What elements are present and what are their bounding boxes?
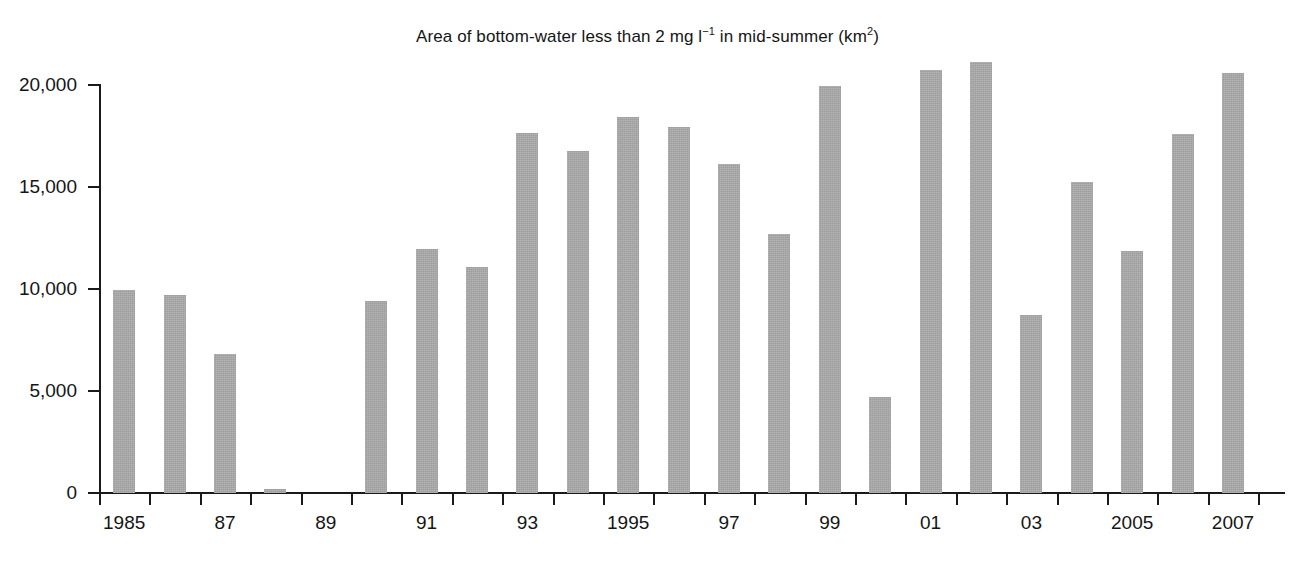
y-axis-tick — [88, 390, 99, 392]
bar — [617, 117, 639, 493]
chart-title-part-1: Area of bottom-water less than 2 mg l — [416, 27, 702, 46]
bar — [516, 133, 538, 493]
x-axis-tick-label: 99 — [819, 512, 840, 534]
x-axis-tick-label: 2007 — [1212, 512, 1254, 534]
x-axis-tick — [704, 494, 706, 505]
x-axis-tick — [99, 494, 101, 505]
y-axis-tick — [88, 186, 99, 188]
x-axis-tick-label: 91 — [416, 512, 437, 534]
x-axis-tick — [301, 494, 303, 505]
x-axis-tick — [603, 494, 605, 505]
bar — [1222, 73, 1244, 493]
chart-figure: Area of bottom-water less than 2 mg l−1 … — [0, 0, 1295, 561]
x-axis-tick-label: 87 — [214, 512, 235, 534]
x-axis-tick — [1208, 494, 1210, 505]
x-axis-tick — [855, 494, 857, 505]
plot-area: No data — [99, 85, 1284, 493]
x-axis-tick — [200, 494, 202, 505]
bar — [869, 397, 891, 493]
x-axis-tick — [1157, 494, 1159, 505]
bar — [970, 62, 992, 493]
bar — [1071, 182, 1093, 493]
bar — [365, 301, 387, 493]
x-axis-tick-label: 93 — [517, 512, 538, 534]
x-axis-tick — [805, 494, 807, 505]
x-axis-tick-label: 2005 — [1111, 512, 1153, 534]
x-axis-tick — [502, 494, 504, 505]
bar — [1172, 134, 1194, 493]
bar — [416, 249, 438, 493]
bar — [668, 127, 690, 493]
bar — [567, 151, 589, 493]
x-axis-tick-label: 03 — [1021, 512, 1042, 534]
x-axis-tick-label: 1995 — [607, 512, 649, 534]
chart-title-superscript-minus-one: −1 — [702, 25, 715, 37]
x-axis-tick — [553, 494, 555, 505]
bar — [1121, 251, 1143, 493]
x-axis-tick — [956, 494, 958, 505]
x-axis-tick-label: 97 — [718, 512, 739, 534]
chart-title: Area of bottom-water less than 2 mg l−1 … — [0, 27, 1295, 47]
x-axis-tick — [1057, 494, 1059, 505]
bar — [466, 267, 488, 493]
x-axis-tick — [452, 494, 454, 505]
y-axis-tick-label: 10,000 — [19, 278, 77, 300]
x-axis-tick — [905, 494, 907, 505]
no-data-annotation: No data — [0, 430, 335, 493]
x-axis-tick — [250, 494, 252, 505]
x-axis-tick-label: 89 — [315, 512, 336, 534]
x-axis-tick — [1107, 494, 1109, 505]
y-axis-tick — [88, 84, 99, 86]
x-axis-tick-label: 1985 — [103, 512, 145, 534]
x-axis-tick — [1258, 494, 1260, 505]
x-axis-tick — [149, 494, 151, 505]
bar — [1020, 315, 1042, 494]
bar — [718, 164, 740, 493]
y-axis-tick — [88, 288, 99, 290]
x-axis-tick — [754, 494, 756, 505]
y-axis-tick-label: 15,000 — [19, 176, 77, 198]
x-axis-tick — [1006, 494, 1008, 505]
x-axis-tick — [401, 494, 403, 505]
chart-title-part-3: ) — [873, 27, 879, 46]
x-axis-tick-label: 01 — [920, 512, 941, 534]
bar — [920, 70, 942, 493]
x-axis-tick — [351, 494, 353, 505]
bar — [819, 86, 841, 493]
bar — [768, 234, 790, 493]
chart-title-part-2: in mid-summer (km — [715, 27, 867, 46]
y-axis-tick-label: 20,000 — [19, 74, 77, 96]
x-axis-tick — [653, 494, 655, 505]
y-axis-tick-label: 5,000 — [29, 380, 77, 402]
